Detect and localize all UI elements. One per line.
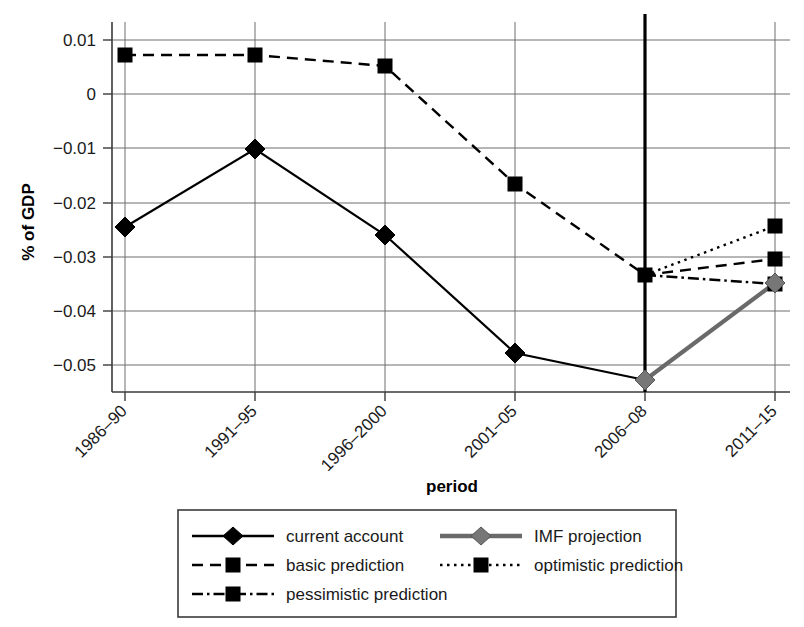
ytick-label-6: −0.05	[53, 356, 96, 375]
legend-label-optimistic-prediction: optimistic prediction	[534, 556, 683, 575]
ytick-label-4: −0.03	[53, 248, 96, 267]
chart-figure: 0.01 0 −0.01 −0.02 −0.03 −0.04 −0.05 % o…	[0, 0, 804, 627]
legend-marker-square-icon	[226, 558, 240, 572]
legend-marker-square-optimistic-icon	[474, 558, 488, 572]
series-optimistic-prediction-markers	[768, 219, 782, 233]
y-axis-title: % of GDP	[19, 183, 38, 260]
legend-label-imf-projection: IMF projection	[534, 527, 642, 546]
series-current-account-markers	[115, 139, 525, 363]
chart-svg: 0.01 0 −0.01 −0.02 −0.03 −0.04 −0.05 % o…	[0, 0, 804, 627]
y-gridlines	[112, 40, 790, 365]
legend-entry-optimistic-prediction[interactable]: optimistic prediction	[440, 556, 683, 575]
xtick-label-5: 2011–15	[721, 401, 780, 460]
ytick-label-3: −0.02	[53, 194, 96, 213]
x-gridlines	[125, 22, 775, 392]
ytick-label-0: 0.01	[63, 31, 96, 50]
series-optimistic-prediction-line	[645, 226, 775, 275]
legend-label-pessimistic-prediction: pessimistic prediction	[286, 585, 448, 604]
legend-marker-diamond-icon	[223, 527, 243, 545]
legend-entry-pessimistic-prediction[interactable]: pessimistic prediction	[192, 585, 448, 604]
legend-entry-current-account[interactable]: current account	[192, 527, 403, 546]
x-axis-title: period	[426, 477, 478, 496]
legend-entry-basic-prediction[interactable]: basic prediction	[192, 556, 404, 575]
ytick-label-5: −0.04	[53, 302, 96, 321]
legend-marker-square-pessimistic-icon	[226, 587, 240, 601]
legend-label-current-account: current account	[286, 527, 403, 546]
legend-marker-diamond-gray-icon	[471, 527, 491, 545]
x-tickmarks	[125, 392, 775, 401]
xtick-label-2: 1996–2000	[317, 401, 391, 475]
xtick-label-4: 2006–08	[591, 401, 651, 461]
legend-entry-imf-projection[interactable]: IMF projection	[440, 527, 642, 546]
ytick-label-2: −0.01	[53, 139, 96, 158]
xtick-label-0: 1986–90	[71, 401, 131, 461]
series-basic-prediction-markers	[118, 48, 782, 266]
series-junction-marker-2006-08	[638, 268, 652, 282]
xtick-label-1: 1991–95	[201, 401, 261, 461]
series-pessimistic-prediction-line	[645, 275, 775, 284]
series-basic-prediction-line	[125, 55, 775, 275]
xtick-label-3: 2001–05	[461, 401, 521, 461]
legend-label-basic-prediction: basic prediction	[286, 556, 404, 575]
ytick-label-1: 0	[87, 85, 96, 104]
y-tickmarks	[103, 40, 112, 365]
